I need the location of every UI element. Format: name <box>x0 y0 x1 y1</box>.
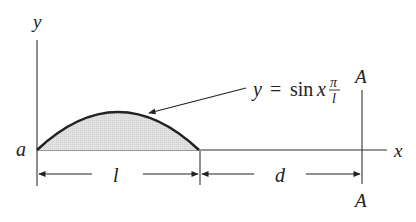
fraction-denominator: l <box>332 91 336 106</box>
sine-load-curve <box>37 112 199 150</box>
fraction-numerator: π <box>330 75 338 90</box>
y-axis-label: y <box>31 11 42 32</box>
equation-lhs: y <box>251 78 262 101</box>
equation-leader-arrow <box>149 88 246 113</box>
dimension-length-label: l <box>113 164 119 186</box>
x-axis-label: x <box>393 140 403 161</box>
equation-equals: = <box>270 78 281 100</box>
curve-equation: y = sin x π l <box>251 75 340 106</box>
diagram-canvas: y x a y = sin x π l A A l d <box>0 0 416 222</box>
section-label-bottom: A <box>353 190 367 211</box>
equation-function: sin <box>290 78 313 100</box>
origin-label: a <box>16 138 26 160</box>
equation-variable: x <box>316 78 326 100</box>
dimension-distance-label: d <box>275 164 286 186</box>
section-label-top: A <box>353 66 367 87</box>
